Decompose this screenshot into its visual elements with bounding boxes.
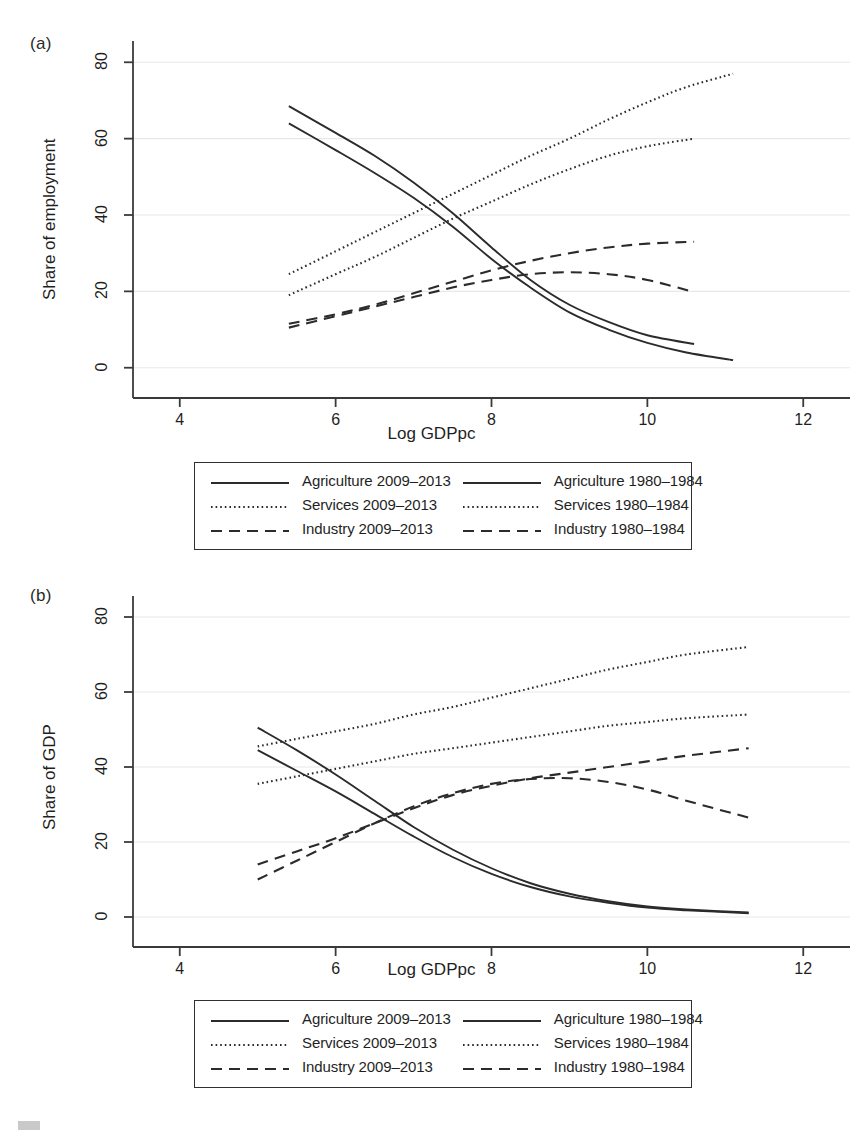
legend-label: Services 2009–2013 (302, 496, 437, 513)
x-tick-label-12: 12 (783, 411, 823, 429)
legend-line-swatch-dotted (209, 501, 291, 513)
x-tick-label-10: 10 (627, 411, 667, 429)
legend-item-services-2009-2013[interactable]: Services 2009–2013 (209, 1034, 451, 1051)
legend-item-industry-1980-1984[interactable]: Industry 1980–1984 (461, 520, 703, 537)
legend-swatch (461, 1061, 543, 1073)
legend-item-services-2009-2013[interactable]: Services 2009–2013 (209, 496, 451, 513)
x-tick-label-4: 4 (160, 411, 200, 429)
panel-a-plot (0, 0, 863, 430)
figure-structural-transformation: (a) Share of employment Log GDPpc Agricu… (0, 0, 863, 1140)
panel-b: (b) Share of GDP Log GDPpc Agriculture 2… (0, 560, 863, 1120)
panel-a-legend-grid: Agriculture 2009–2013Agriculture 1980–19… (195, 463, 691, 546)
legend-swatch (461, 1013, 543, 1025)
legend-item-services-1980-1984[interactable]: Services 1980–1984 (461, 1034, 703, 1051)
series-line-industry-1980-1984 (258, 778, 749, 879)
series-line-services-2009-2013 (258, 647, 749, 746)
series-line-services-1980-1984 (289, 139, 694, 296)
legend-item-agriculture-1980-1984[interactable]: Agriculture 1980–1984 (461, 1010, 703, 1027)
x-tick-label-12: 12 (783, 960, 823, 978)
y-tick-label-40: 40 (93, 751, 111, 781)
legend-line-swatch-dashed (209, 525, 291, 537)
legend-label: Services 1980–1984 (554, 496, 689, 513)
legend-label: Industry 2009–2013 (302, 1058, 433, 1075)
legend-swatch (209, 1013, 291, 1025)
panel-b-legend: Agriculture 2009–2013Agriculture 1980–19… (194, 1000, 692, 1088)
legend-item-industry-2009-2013[interactable]: Industry 2009–2013 (209, 520, 451, 537)
panel-a-x-axis-title: Log GDPpc (0, 424, 863, 444)
legend-label: Agriculture 1980–1984 (554, 472, 703, 489)
x-tick-label-6: 6 (316, 960, 356, 978)
legend-label: Services 1980–1984 (554, 1034, 689, 1051)
panel-b-legend-grid: Agriculture 2009–2013Agriculture 1980–19… (195, 1001, 691, 1084)
y-tick-label-0: 0 (93, 352, 111, 382)
y-tick-label-60: 60 (93, 676, 111, 706)
legend-line-swatch-dotted (461, 501, 543, 513)
series-line-industry-2009-2013 (258, 748, 749, 864)
legend-swatch (209, 499, 291, 511)
x-tick-label-6: 6 (316, 411, 356, 429)
legend-item-industry-2009-2013[interactable]: Industry 2009–2013 (209, 1058, 451, 1075)
panel-b-plot (0, 560, 863, 980)
legend-label: Services 2009–2013 (302, 1034, 437, 1051)
series-line-agriculture-1980-1984 (289, 106, 694, 344)
y-tick-label-0: 0 (93, 901, 111, 931)
legend-label: Agriculture 2009–2013 (302, 472, 451, 489)
series-line-agriculture-2009-2013 (258, 750, 749, 913)
legend-swatch (461, 1037, 543, 1049)
y-tick-label-60: 60 (93, 123, 111, 153)
legend-label: Industry 1980–1984 (554, 1058, 685, 1075)
series-line-industry-1980-1984 (289, 272, 694, 327)
panel-a-legend: Agriculture 2009–2013Agriculture 1980–19… (194, 462, 692, 550)
legend-label: Agriculture 2009–2013 (302, 1010, 451, 1027)
legend-swatch (461, 499, 543, 511)
legend-line-swatch-solid (461, 1015, 543, 1027)
legend-line-swatch-dashed (209, 1063, 291, 1075)
legend-label: Agriculture 1980–1984 (554, 1010, 703, 1027)
legend-label: Industry 2009–2013 (302, 520, 433, 537)
legend-item-industry-1980-1984[interactable]: Industry 1980–1984 (461, 1058, 703, 1075)
legend-line-swatch-dotted (209, 1039, 291, 1051)
legend-line-swatch-solid (209, 477, 291, 489)
legend-swatch (461, 475, 543, 487)
y-tick-label-20: 20 (93, 826, 111, 856)
legend-item-services-1980-1984[interactable]: Services 1980–1984 (461, 496, 703, 513)
scan-artifact (18, 1121, 40, 1130)
legend-line-swatch-dashed (461, 525, 543, 537)
legend-swatch (209, 523, 291, 535)
y-tick-label-80: 80 (93, 601, 111, 631)
legend-line-swatch-solid (461, 477, 543, 489)
legend-item-agriculture-1980-1984[interactable]: Agriculture 1980–1984 (461, 472, 703, 489)
legend-line-swatch-dashed (461, 1063, 543, 1075)
y-tick-label-80: 80 (93, 46, 111, 76)
legend-line-swatch-dotted (461, 1039, 543, 1051)
panel-b-x-axis-title: Log GDPpc (0, 960, 863, 980)
x-tick-label-8: 8 (472, 960, 512, 978)
series-line-services-1980-1984 (258, 715, 749, 784)
x-tick-label-8: 8 (472, 411, 512, 429)
legend-swatch (209, 1037, 291, 1049)
legend-line-swatch-solid (209, 1015, 291, 1027)
series-line-agriculture-1980-1984 (258, 728, 749, 913)
y-tick-label-20: 20 (93, 275, 111, 305)
panel-a: (a) Share of employment Log GDPpc Agricu… (0, 0, 863, 560)
series-line-services-2009-2013 (289, 74, 733, 274)
y-tick-label-40: 40 (93, 199, 111, 229)
x-tick-label-10: 10 (627, 960, 667, 978)
legend-label: Industry 1980–1984 (554, 520, 685, 537)
x-tick-label-4: 4 (160, 960, 200, 978)
series-line-industry-2009-2013 (289, 242, 694, 324)
legend-swatch (461, 523, 543, 535)
legend-item-agriculture-2009-2013[interactable]: Agriculture 2009–2013 (209, 472, 451, 489)
legend-item-agriculture-2009-2013[interactable]: Agriculture 2009–2013 (209, 1010, 451, 1027)
legend-swatch (209, 475, 291, 487)
legend-swatch (209, 1061, 291, 1073)
